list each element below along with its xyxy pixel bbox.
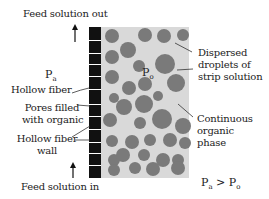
pores-line1: Pores filled — [22, 102, 82, 114]
hollow-fiber-label: Hollow fiber — [11, 84, 72, 96]
pressure-aqueous-label: Pa — [45, 68, 57, 83]
pores-label: Pores filled with organic — [22, 102, 82, 126]
dispersed-droplets-label: Dispersed droplets of strip solution — [198, 47, 262, 83]
wall-line1: Hollow fiber — [16, 133, 78, 145]
continuous-line2: organic — [197, 125, 253, 137]
pa-sub: a — [52, 75, 56, 83]
continuous-organic-phase-label: Continuous organic phase — [197, 113, 253, 149]
continuous-line3: phase — [197, 137, 253, 149]
po-sub: o — [149, 73, 153, 81]
dispersed-line2: droplets of — [198, 59, 262, 71]
dispersed-line3: strip solution — [198, 71, 262, 83]
hollow-fiber-wall — [89, 27, 101, 178]
wall-line2: wall — [16, 145, 78, 157]
hollow-fiber-wall-label: Hollow fiber wall — [16, 133, 78, 157]
pores-line2: with organic — [22, 114, 82, 126]
feed-out-label: Feed solution out — [23, 8, 108, 20]
continuous-line1: Continuous — [197, 113, 253, 125]
dispersed-line1: Dispersed — [198, 47, 262, 59]
rel-op: > — [213, 176, 229, 189]
leader-hollow-fiber — [72, 88, 89, 93]
feed-in-label: Feed solution in — [21, 181, 99, 193]
pressure-relation-label: Pa > Po — [201, 176, 240, 191]
pressure-organic-label: Po — [142, 66, 154, 81]
feed-out-arrow-icon — [72, 24, 78, 42]
feed-in-arrow-icon — [70, 162, 76, 178]
rel-right-sub: o — [236, 183, 240, 191]
membrane-diagram — [0, 0, 269, 199]
